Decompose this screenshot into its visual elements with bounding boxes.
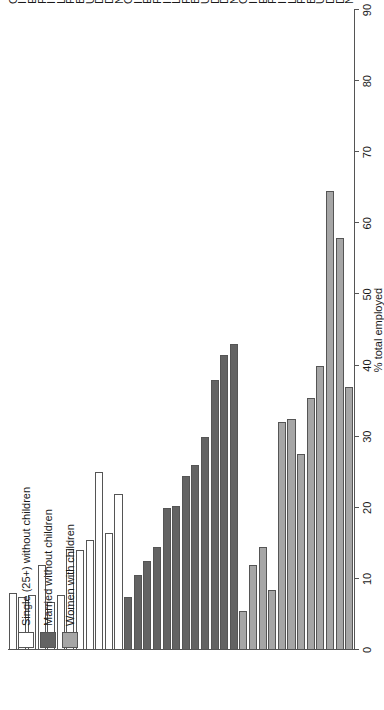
bar	[191, 465, 199, 650]
category-tick-label: BE12	[189, 0, 201, 4]
value-axis-tick	[354, 578, 359, 579]
bar	[336, 238, 344, 650]
bar	[259, 547, 267, 650]
category-tick-label: DK	[103, 0, 115, 4]
legend-swatch-women	[62, 632, 78, 648]
bar	[114, 494, 122, 650]
category-tick-label: BE12	[305, 0, 317, 4]
bar	[268, 590, 276, 650]
category-tick-label: DK	[334, 0, 346, 4]
category-tick-label: UK	[314, 0, 326, 4]
bar	[316, 366, 324, 650]
category-tick-label: E	[141, 0, 153, 4]
category-tick-label: GR	[7, 0, 19, 4]
bar	[230, 344, 238, 650]
value-axis-line: 0102030405060708090	[354, 10, 355, 650]
legend-item-married: Married without children	[40, 487, 56, 648]
bar	[153, 547, 161, 650]
bar	[326, 191, 334, 650]
category-tick-label: D	[93, 0, 105, 4]
bar	[345, 387, 353, 650]
bar	[211, 380, 219, 650]
legend-label-women: Women with children	[64, 524, 76, 626]
category-tick-label: UK	[199, 0, 211, 4]
value-axis-tick	[354, 436, 359, 437]
category-tick-label: I	[16, 1, 28, 4]
category-tick-label: D	[209, 0, 221, 4]
category-tick-label: P	[266, 0, 278, 4]
value-axis-tick	[354, 507, 359, 508]
legend-swatch-married	[40, 632, 56, 648]
value-axis-title: % total employed	[372, 10, 384, 650]
category-tick-label: F	[64, 0, 76, 4]
value-axis-tick	[354, 9, 359, 10]
category-tick-label: E	[257, 0, 269, 4]
bar	[287, 419, 295, 650]
chart-legend: Single (25+) without children Married wi…	[18, 487, 78, 648]
category-tick-label: NL	[113, 0, 125, 4]
bar	[201, 437, 209, 650]
category-tick-label: BE12	[74, 0, 86, 4]
category-tick-label: L	[286, 0, 298, 4]
bar	[249, 565, 257, 650]
value-axis-tick	[354, 365, 359, 366]
category-tick-label: UK	[84, 0, 96, 4]
category-tick-label: F	[180, 0, 192, 4]
bar	[182, 476, 190, 650]
category-tick-label: I	[247, 1, 259, 4]
bar	[220, 355, 228, 650]
category-tick-label: IRL	[276, 0, 288, 4]
category-tick-label: GR	[237, 0, 249, 4]
category-tick-label: NL	[228, 0, 240, 4]
value-axis-tick	[354, 151, 359, 152]
bar	[163, 508, 171, 650]
category-tick-label: GR	[122, 0, 134, 4]
value-axis-tick	[354, 222, 359, 223]
category-tick-label: L	[170, 0, 182, 4]
bar	[307, 398, 315, 650]
legend-label-single: Single (25+) without children	[20, 487, 32, 626]
category-tick-label: I	[132, 1, 144, 4]
category-tick-label: E	[26, 0, 38, 4]
legend-swatch-single	[18, 632, 34, 648]
legend-item-women: Women with children	[62, 487, 78, 648]
bar	[143, 561, 151, 650]
category-tick-label: IRL	[161, 0, 173, 4]
bar	[239, 611, 247, 650]
category-tick-label: IRL	[45, 0, 57, 4]
bar	[95, 472, 103, 650]
legend-item-single: Single (25+) without children	[18, 487, 34, 648]
category-tick-label: NL	[343, 0, 355, 4]
category-tick-label: P	[36, 0, 48, 4]
bar	[172, 506, 180, 650]
category-tick-label: P	[151, 0, 163, 4]
value-axis-tick	[354, 293, 359, 294]
bar	[297, 454, 305, 650]
value-axis-tick	[354, 80, 359, 81]
category-tick-label: DK	[218, 0, 230, 4]
bar	[134, 575, 142, 650]
category-tick-label: D	[324, 0, 336, 4]
category-tick-label: F	[295, 0, 307, 4]
value-axis-tick	[354, 649, 359, 650]
bar	[86, 540, 94, 650]
bar	[9, 593, 17, 650]
bar	[278, 422, 286, 650]
bar	[124, 597, 132, 650]
legend-label-married: Married without children	[42, 509, 54, 626]
category-tick-label: L	[55, 0, 67, 4]
bar	[105, 533, 113, 650]
